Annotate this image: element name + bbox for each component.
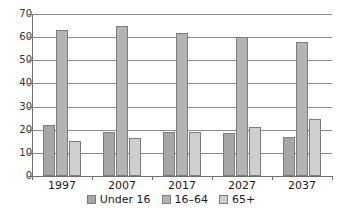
- y-axis-tick-mark: [28, 83, 32, 84]
- y-axis-tick: 30: [0, 107, 32, 108]
- bar: [189, 132, 201, 176]
- bar-group: [283, 14, 321, 176]
- y-axis-tick-mark: [28, 130, 32, 131]
- bar: [249, 127, 261, 176]
- bar: [283, 137, 295, 176]
- bar-chart: 010203040506070 19972007201720272037 Und…: [0, 0, 342, 221]
- y-axis-tick: 60: [0, 37, 32, 38]
- bar: [56, 30, 68, 176]
- x-axis-tick-label: 2037: [272, 180, 332, 192]
- bar: [163, 132, 175, 176]
- bar: [296, 42, 308, 176]
- bar: [223, 133, 235, 176]
- bar: [116, 26, 128, 176]
- legend-swatch: [87, 195, 96, 204]
- y-axis-tick: 70: [0, 14, 32, 15]
- y-axis-tick: 50: [0, 60, 32, 61]
- x-axis-tick-label: 2017: [152, 180, 212, 192]
- bar: [236, 37, 248, 176]
- chart-legend: Under 1616–6465+: [0, 194, 342, 205]
- x-axis-tick-label: 2027: [212, 180, 272, 192]
- y-axis-tick: 10: [0, 153, 32, 154]
- legend-item[interactable]: 16–64: [162, 194, 209, 205]
- bar: [69, 141, 81, 176]
- y-axis-tick-mark: [28, 60, 32, 61]
- bar: [43, 125, 55, 176]
- bar-group: [163, 14, 201, 176]
- y-axis-tick-mark: [28, 107, 32, 108]
- legend-label: 65+: [232, 194, 255, 205]
- y-axis-tick: 40: [0, 83, 32, 84]
- bar: [309, 119, 321, 176]
- legend-item[interactable]: Under 16: [87, 194, 151, 205]
- y-axis-tick: 0: [0, 176, 32, 177]
- y-axis-tick-mark: [28, 37, 32, 38]
- y-axis-tick-mark: [28, 14, 32, 15]
- y-axis-tick-mark: [28, 153, 32, 154]
- legend-label: 16–64: [175, 194, 209, 205]
- bar-group: [223, 14, 261, 176]
- x-axis-line: [32, 176, 332, 177]
- legend-swatch: [162, 195, 171, 204]
- x-axis-tick-label: 2007: [92, 180, 152, 192]
- y-axis-tick: 20: [0, 130, 32, 131]
- bar: [129, 138, 141, 176]
- bar-group: [103, 14, 141, 176]
- bar: [176, 33, 188, 176]
- legend-item[interactable]: 65+: [219, 194, 255, 205]
- caption-strip: [0, 212, 342, 221]
- legend-label: Under 16: [100, 194, 151, 205]
- bar: [103, 132, 115, 176]
- x-axis-tick-mark: [332, 176, 333, 180]
- x-axis-tick-label: 1997: [32, 180, 92, 192]
- legend-swatch: [219, 195, 228, 204]
- bar-group: [43, 14, 81, 176]
